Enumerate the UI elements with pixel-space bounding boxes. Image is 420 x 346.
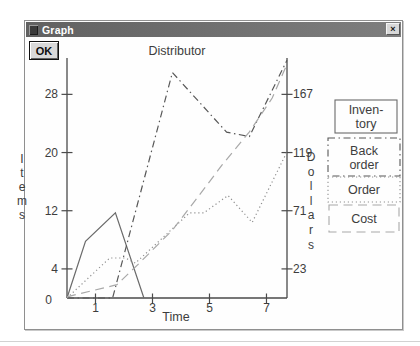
titlebar[interactable]: Graph — [26, 22, 401, 37]
ok-button[interactable]: OK — [29, 41, 59, 60]
window-title: Graph — [42, 24, 74, 36]
close-button[interactable]: × — [386, 23, 400, 35]
page-artifact-line — [0, 341, 420, 342]
app-icon[interactable] — [29, 25, 38, 35]
graph-window: Graph × OK — [24, 20, 403, 330]
page: { "window": { "title": "Graph", "close_g… — [0, 0, 420, 346]
close-icon: × — [390, 24, 395, 34]
